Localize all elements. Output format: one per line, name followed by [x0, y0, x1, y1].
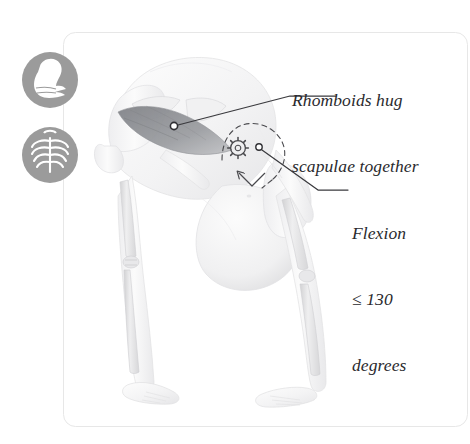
flexed-biceps-icon[interactable] — [22, 52, 78, 108]
annotation-label-flexion: Flexion ≤ 130 degrees — [352, 178, 406, 421]
annotation-line: scapulae together — [292, 155, 419, 177]
annotation-line: Flexion — [352, 222, 406, 244]
annotation-line: ≤ 130 — [352, 288, 406, 310]
anchor-rhomboids — [170, 122, 177, 129]
illustration-stage: Rhomboids hug scapulae together Flexion … — [0, 0, 470, 444]
ribcage-icon[interactable] — [22, 127, 78, 183]
annotation-line: Rhomboids hug — [292, 89, 419, 111]
annotation-line: degrees — [352, 354, 406, 376]
knee-joint-left — [123, 256, 139, 268]
anchor-flexion — [256, 144, 262, 150]
